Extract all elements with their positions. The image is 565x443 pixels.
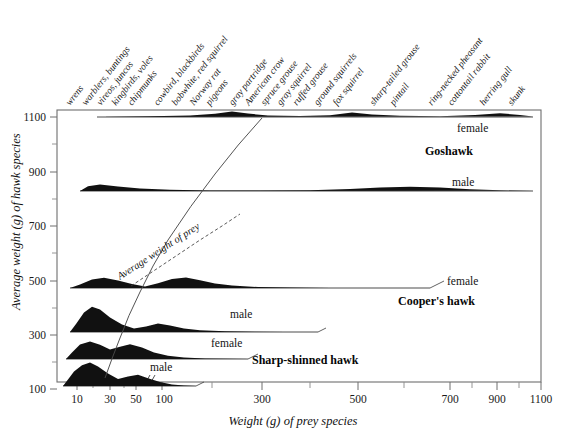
- y-tick-label-900: 900: [29, 166, 47, 178]
- series-label-sharp-shinned-hawk-female: female: [211, 337, 242, 349]
- y-tick-label-500: 500: [29, 275, 47, 287]
- y-tick-label-300: 300: [29, 329, 47, 341]
- series-label-coopers-hawk-male: male: [230, 308, 252, 320]
- y-tick-label-1100: 1100: [23, 111, 46, 123]
- x-axis-title: Weight (g) of prey species: [229, 414, 358, 428]
- series-label-goshawk-female: female: [457, 122, 488, 134]
- series-label-coopers-hawk-female: female: [447, 275, 478, 287]
- hawk-prey-weight-figure: 1100 900 700 500 300 100 Average weight …: [0, 0, 565, 443]
- x-tick-label-10: 10: [71, 393, 83, 405]
- x-tick-label-30: 30: [104, 393, 116, 405]
- x-tick-label-300: 300: [253, 393, 271, 405]
- species-label-sharp-shinned-hawk: Sharp-shinned hawk: [252, 353, 359, 367]
- y-axis-title: Average weight (g) of hawk species: [9, 133, 23, 311]
- x-tick-label-1100: 1100: [530, 393, 553, 405]
- species-label-goshawk: Goshawk: [425, 144, 473, 158]
- y-tick-label-100: 100: [29, 383, 47, 395]
- species-label-coopers-hawk: Cooper's hawk: [398, 294, 475, 308]
- x-tick-label-100: 100: [155, 393, 173, 405]
- series-label-goshawk-male: male: [452, 176, 474, 188]
- series-label-sharp-shinned-hawk-male: male: [150, 361, 172, 373]
- y-axis: 1100 900 700 500 300 100: [23, 111, 57, 395]
- y-tick-label-700: 700: [29, 220, 47, 232]
- top-label-skunk: skunk: [505, 83, 528, 108]
- top-prey-species-labels: wrens warblers, buntings vireos, juncos …: [63, 33, 528, 108]
- x-tick-label-700: 700: [441, 393, 459, 405]
- x-tick-label-50: 50: [130, 393, 142, 405]
- leader-sharp-male: [196, 382, 204, 386]
- x-tick-label-500: 500: [349, 393, 367, 405]
- x-tick-label-900: 900: [488, 393, 506, 405]
- chart-canvas: 1100 900 700 500 300 100 Average weight …: [0, 0, 565, 443]
